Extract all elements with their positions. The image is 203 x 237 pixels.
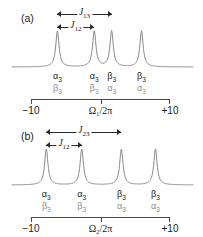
spin-labels-bottom-a: β3β3α3α3: [0, 82, 203, 94]
spin-label-bottom-1: β3: [90, 82, 99, 98]
coupling-arrow-j12: J12: [57, 22, 94, 33]
spin-label-bottom-3: α3: [137, 82, 146, 98]
arrow-head-left-icon: [57, 24, 61, 30]
spin-label-bottom-3: α3: [151, 200, 160, 216]
axis-label-right: +10: [162, 105, 179, 117]
spin-label-bottom-2: α3: [117, 200, 126, 216]
arrow-head-right-icon: [108, 11, 112, 17]
coupling-label-j23: J23: [76, 125, 91, 140]
spin-labels-top-b: α3α3β3β3: [0, 188, 203, 200]
spin-label-bottom-1: β3: [77, 200, 86, 216]
spin-label-bottom-2: α3: [107, 82, 116, 98]
spin-labels-bottom-b: β3β3α3α3: [0, 200, 203, 212]
coupling-arrow-j13: J13: [57, 9, 111, 20]
nmr-spectra-figure: (a) J13 J12 α3α3β3β3 β3β3α3α3 −10 Ω₁/2π …: [0, 0, 203, 237]
axis-tick-left: [31, 99, 32, 104]
axis-tick-left: [31, 217, 32, 222]
panel-b: (b) J23 J12 α3α3β3β3 β3β3α3α3 −10 Ω₂/2π …: [0, 118, 203, 237]
coupling-arrow-j12-b: J12: [46, 140, 81, 151]
axis-label-left: −10: [23, 223, 40, 235]
arrow-head-left-icon: [46, 142, 50, 148]
arrow-head-left-icon: [57, 11, 61, 17]
coupling-arrow-j23: J23: [46, 127, 121, 138]
arrow-head-left-icon: [46, 129, 50, 135]
axis-label-right: +10: [162, 223, 179, 235]
axis-label-center: Ω₂/2π: [89, 223, 113, 235]
axis-label-left: −10: [23, 105, 40, 117]
arrow-head-right-icon: [78, 142, 82, 148]
axis-tick-right: [169, 99, 170, 104]
spin-label-bottom-0: β3: [42, 200, 51, 216]
axis-tick-center: [101, 217, 102, 222]
panel-a: (a) J13 J12 α3α3β3β3 β3β3α3α3 −10 Ω₁/2π …: [0, 0, 203, 119]
arrow-head-right-icon: [117, 129, 121, 135]
coupling-label-j12: J12: [68, 20, 83, 35]
axis-label-center: Ω₁/2π: [89, 105, 113, 117]
spin-labels-top-a: α3α3β3β3: [0, 70, 203, 82]
arrow-head-right-icon: [90, 24, 94, 30]
axis-b: −10 Ω₂/2π +10: [31, 217, 170, 237]
coupling-label-j12-b: J12: [56, 138, 71, 153]
axis-tick-right: [169, 217, 170, 222]
spin-label-bottom-0: β3: [53, 82, 62, 98]
axis-tick-center: [101, 99, 102, 104]
